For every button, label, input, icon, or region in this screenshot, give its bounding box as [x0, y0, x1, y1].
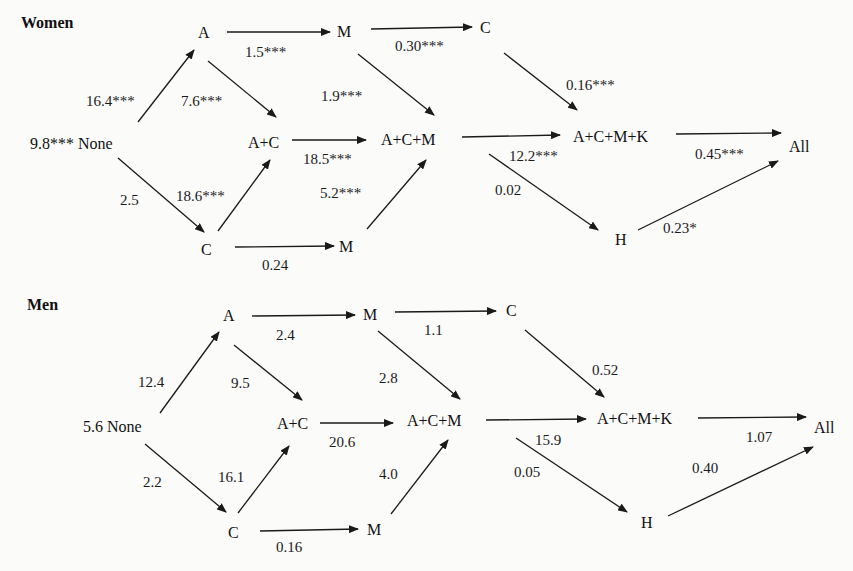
arrow-m-acm [358, 54, 434, 115]
arrow-acm-acmk [486, 419, 586, 420]
arrow-m-c [395, 311, 496, 312]
edge-label-m-c: 0.30*** [395, 38, 444, 54]
arrow-m-acm-bottom [367, 160, 426, 229]
edge-label-acm-acmk: 12.2*** [509, 148, 558, 164]
node-all: All [789, 138, 809, 155]
node-h: H [615, 231, 627, 248]
edge-label-acm-acmk: 15.9 [535, 432, 561, 448]
node-c-top: C [506, 302, 517, 319]
arrow-m-acm-bottom [391, 440, 448, 514]
node-m-bottom: M [339, 238, 353, 255]
edge-label-m-acm-bottom: 4.0 [379, 466, 398, 482]
arrow-a-ac [234, 345, 302, 400]
edge-label-none-a: 16.4*** [86, 93, 135, 109]
node-h: H [641, 514, 653, 531]
edge-label-m-c: 1.1 [424, 322, 443, 338]
node-a-plus-c-plus-m: A+C+M [407, 412, 462, 429]
node-a-plus-c-plus-m-plus-k: A+C+M+K [597, 410, 672, 427]
edge-label-acmk-all: 1.07 [746, 429, 772, 445]
arrow-h-all [668, 447, 813, 516]
arrow-c-m [235, 246, 334, 247]
edge-label-none-c: 2.2 [143, 474, 162, 490]
transition-diagram: Women 9.8*** None A C A+C M C M A+C+M A+… [0, 0, 853, 571]
edge-label-c-m: 0.16 [276, 539, 302, 555]
arrow-c-ac [238, 446, 289, 513]
edge-label-c-acmk: 0.16*** [566, 77, 615, 93]
edge-label-m-acm: 1.9*** [321, 88, 362, 104]
edge-label-a-m: 2.4 [276, 327, 295, 343]
arrow-acm-acmk [462, 135, 560, 137]
arrow-acmk-all [676, 133, 781, 134]
arrow-layer [0, 0, 853, 571]
edge-label-c-ac: 16.1 [218, 469, 244, 485]
edge-label-ac-acm: 18.5*** [303, 151, 352, 167]
node-none: 9.8*** None [30, 135, 113, 152]
edge-label-m-acm: 2.8 [379, 370, 398, 386]
node-c-top: C [480, 19, 491, 36]
edge-label-m-acm-bottom: 5.2*** [320, 185, 361, 201]
node-c: C [201, 241, 212, 258]
edge-label-none-a: 12.4 [138, 374, 164, 390]
edge-label-c-acmk: 0.52 [592, 362, 618, 378]
panel-title-women: Women [21, 14, 73, 32]
edge-label-h-all: 0.23* [663, 220, 697, 236]
node-a-plus-c: A+C [277, 415, 308, 432]
arrow-none-a [160, 332, 219, 413]
node-a-plus-c: A+C [248, 134, 279, 151]
arrow-h-all [638, 161, 778, 230]
edge-label-acmk-all: 0.45*** [695, 146, 744, 162]
arrow-none-a [138, 50, 194, 122]
edge-label-acm-h: 0.05 [514, 464, 540, 480]
arrow-m-acm [378, 331, 460, 399]
node-a: A [198, 24, 210, 41]
arrow-m-c [371, 27, 472, 29]
edge-label-none-c: 2.5 [120, 192, 139, 208]
node-a: A [223, 307, 235, 324]
node-a-plus-c-plus-m-plus-k: A+C+M+K [573, 128, 648, 145]
edge-label-a-m: 1.5*** [245, 44, 286, 60]
node-none: 5.6 None [83, 418, 142, 435]
edge-label-a-ac: 7.6*** [181, 93, 222, 109]
arrow-c-m [260, 529, 358, 531]
node-m-top: M [337, 23, 351, 40]
arrow-c-ac [218, 160, 270, 231]
edge-label-a-ac: 9.5 [231, 375, 250, 391]
edge-label-c-ac: 18.6*** [176, 188, 225, 204]
panel-title-men: Men [27, 296, 58, 314]
edge-label-ac-acm: 20.6 [329, 434, 355, 450]
node-c: C [228, 524, 239, 541]
edge-label-c-m: 0.24 [262, 257, 288, 273]
node-all: All [814, 419, 834, 436]
edge-label-acm-h: 0.02 [495, 182, 521, 198]
edge-label-h-all: 0.40 [692, 460, 718, 476]
node-a-plus-c-plus-m: A+C+M [381, 131, 436, 148]
arrow-a-m [252, 315, 355, 316]
node-m-top: M [363, 306, 377, 323]
arrow-acmk-all [698, 417, 806, 418]
node-m-bottom: M [367, 521, 381, 538]
